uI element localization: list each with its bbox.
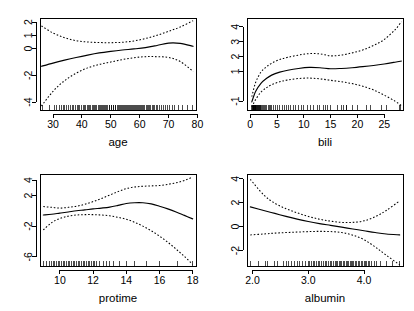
curves-group: [43, 177, 192, 266]
series-upper-ci: [252, 22, 402, 97]
figure-canvas: 304050607080age-4-2012 0510152025bili-11…: [0, 0, 414, 311]
y-tick-label: 0: [22, 46, 34, 52]
x-tick-label: 12: [87, 274, 99, 286]
y-tick-label: -2: [22, 71, 34, 80]
y-tick-label: -4: [22, 97, 34, 106]
series-fit: [41, 43, 193, 66]
x-tick-label: 15: [325, 118, 337, 130]
y-tick-label: 1: [22, 32, 34, 38]
series-lower-ci: [252, 78, 402, 107]
y-tick-label: -6: [22, 252, 34, 261]
rug-plot: [250, 261, 399, 267]
x-tick-label: 70: [163, 118, 175, 130]
rug-plot: [43, 261, 192, 267]
x-tick-label: 20: [352, 118, 364, 130]
y-tick-label: 0: [229, 223, 241, 229]
chart-svg-age: 304050607080age-4-2012: [0, 0, 207, 155]
plot-panel-albumin: 2.03.04.0albumin-2024: [207, 156, 414, 311]
x-tick-label: 18: [187, 274, 199, 286]
x-axis-title: protime: [99, 292, 137, 304]
plot-frame: [40, 18, 196, 110]
y-tick-label: 1: [229, 68, 241, 74]
x-axis-title: albumin: [305, 292, 345, 304]
x-axis-title: bili: [318, 136, 332, 148]
x-tick-label: 14: [120, 274, 132, 286]
series-fit: [250, 207, 399, 235]
chart-svg-protime: 1012141618protime-6-224: [0, 156, 207, 311]
rug-plot: [42, 105, 193, 111]
chart-svg-bili: 0510152025bili-11234: [207, 0, 414, 155]
curves-group: [41, 21, 193, 110]
x-tick-label: 25: [378, 118, 390, 130]
plot-frame: [40, 174, 196, 266]
y-tick-label: 2: [22, 19, 34, 25]
y-tick-label: 2: [229, 200, 241, 206]
plot-panel-protime: 1012141618protime-6-224: [0, 156, 207, 311]
x-axis-title: age: [108, 136, 127, 148]
y-tick-label: 4: [229, 24, 241, 30]
x-tick-label: 10: [54, 274, 66, 286]
x-tick-label: 30: [47, 118, 59, 130]
series-fit: [43, 203, 192, 219]
curves-group: [252, 22, 402, 110]
x-tick-label: 4.0: [357, 274, 372, 286]
y-tick-label: 3: [229, 39, 241, 45]
y-tick-label: 2: [229, 54, 241, 60]
x-tick-label: 2.0: [245, 274, 260, 286]
x-tick-label: 10: [298, 118, 310, 130]
y-tick-label: 4: [22, 177, 34, 183]
x-tick-label: 3.0: [301, 274, 316, 286]
y-tick-label: -1: [229, 96, 241, 105]
series-lower-ci: [41, 57, 193, 106]
y-tick-label: 2: [22, 192, 34, 198]
x-tick-label: 80: [192, 118, 204, 130]
series-lower-ci: [43, 215, 192, 265]
x-tick-label: 0: [247, 118, 253, 130]
plot-panel-bili: 0510152025bili-11234: [207, 0, 414, 155]
x-tick-label: 40: [76, 118, 88, 130]
x-tick-label: 5: [274, 118, 280, 130]
series-upper-ci: [41, 21, 193, 43]
series-upper-ci: [43, 177, 192, 208]
x-tick-label: 60: [134, 118, 146, 130]
plot-panel-age: 304050607080age-4-2012: [0, 0, 207, 155]
chart-svg-albumin: 2.03.04.0albumin-2024: [207, 156, 414, 311]
x-tick-label: 50: [105, 118, 117, 130]
y-tick-label: 4: [229, 176, 241, 182]
curves-group: [250, 179, 399, 266]
rug-plot: [252, 105, 400, 111]
series-upper-ci: [250, 179, 399, 222]
series-lower-ci: [250, 231, 399, 264]
series-fit: [252, 61, 402, 102]
y-tick-label: -2: [22, 221, 34, 230]
y-tick-label: -2: [229, 246, 241, 255]
x-tick-label: 16: [154, 274, 166, 286]
